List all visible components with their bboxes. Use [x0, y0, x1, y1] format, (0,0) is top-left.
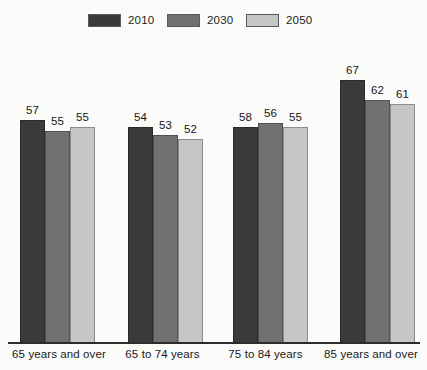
bar-item	[153, 135, 178, 343]
grouped-bar-chart: 2010 2030 2050 575555545352585655676261 …	[0, 0, 427, 370]
category-label-3: 85 years and over	[315, 346, 427, 362]
bar-item	[70, 127, 95, 343]
bar-group	[340, 0, 415, 343]
bar-2050	[390, 104, 415, 343]
bar-item	[283, 127, 308, 343]
bar-2050	[70, 127, 95, 343]
bar-2030	[258, 123, 283, 343]
bar-item	[128, 127, 153, 343]
bar-item	[20, 120, 45, 343]
bar-2030	[45, 131, 70, 343]
category-label-0: 65 years and over	[0, 346, 118, 362]
x-axis-line	[8, 342, 420, 344]
bar-2010	[128, 127, 153, 343]
plot-area: 575555545352585655676261	[0, 0, 427, 343]
bar-group	[20, 0, 95, 343]
bar-2030	[365, 100, 390, 343]
category-label-2: 75 to 84 years	[213, 346, 318, 362]
bar-item	[45, 131, 70, 343]
bar-2030	[153, 135, 178, 343]
bar-2050	[283, 127, 308, 343]
bar-item	[340, 80, 365, 343]
bar-2010	[20, 120, 45, 343]
bar-item	[390, 104, 415, 343]
bar-item	[233, 127, 258, 343]
bar-2050	[178, 139, 203, 343]
category-axis-labels: 65 years and over 65 to 74 years 75 to 8…	[0, 346, 427, 366]
category-label-1: 65 to 74 years	[110, 346, 215, 362]
bar-2010	[233, 127, 258, 343]
bar-group	[128, 0, 203, 343]
bar-item	[258, 123, 283, 343]
bar-group	[233, 0, 308, 343]
bar-2010	[340, 80, 365, 343]
bar-item	[365, 100, 390, 343]
bar-item	[178, 139, 203, 343]
